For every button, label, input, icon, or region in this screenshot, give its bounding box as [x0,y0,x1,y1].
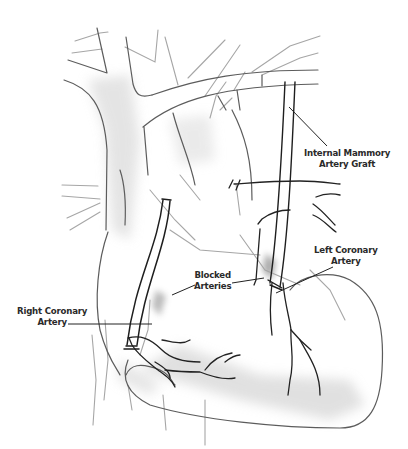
leader-blocked-right [172,285,195,295]
leader-left-coronary [276,267,333,293]
label-line: Right Coronary [17,306,87,317]
label-line: Internal Mammory [304,148,390,159]
heart-illustration [0,0,408,449]
label-left-coronary-artery: Left Coronary Artery [314,245,378,267]
label-line: Arteries [194,281,231,292]
label-line: Artery [17,317,87,328]
label-line: Blocked [194,270,231,281]
heart-bypass-diagram: Internal Mammory Artery Graft Left Coron… [0,0,408,449]
label-line: Artery Graft [304,159,390,170]
label-blocked-arteries: Blocked Arteries [194,270,231,292]
leader-internal-mammary [289,107,327,146]
label-line: Artery [314,256,378,267]
label-line: Left Coronary [314,245,378,256]
label-internal-mammary-graft: Internal Mammory Artery Graft [304,148,390,170]
label-right-coronary-artery: Right Coronary Artery [17,306,87,328]
leader-blocked-left [232,278,264,283]
